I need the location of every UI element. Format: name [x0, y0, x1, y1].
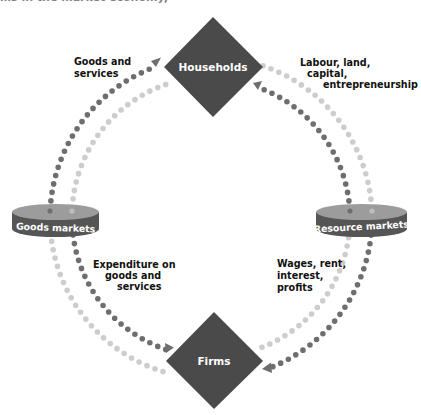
incomes-label: Wages, rent, interest, profits: [277, 258, 349, 293]
flow-incomes-to-households: [253, 81, 350, 218]
flow-dot-icon: [47, 208, 52, 213]
flow-dot-icon: [69, 208, 74, 213]
resource-markets-node: Resource markets: [313, 204, 409, 237]
expenditure-label: Expenditure on goods and services: [93, 259, 179, 292]
arrow-head-icon: [253, 81, 262, 90]
goods-markets-top: [12, 204, 99, 220]
goods-markets-node: Goods markets: [12, 204, 99, 237]
firms-node: Firms: [166, 312, 263, 409]
flow-dot-icon: [369, 208, 374, 213]
arrow-head-icon: [165, 343, 174, 353]
arrow-head-icon: [262, 363, 272, 374]
flow-households-spending-to-goods-market: [72, 85, 166, 218]
arrow-head-icon: [151, 58, 161, 68]
flow-goods-services-to-households: [50, 58, 161, 219]
resource-markets-top: [316, 204, 407, 220]
households-label: Households: [179, 61, 248, 73]
firms-label: Firms: [197, 355, 230, 367]
circular-flow-diagram: Households Firms Goods markets Resource …: [0, 0, 421, 415]
flow-goods-from-firms: [50, 218, 163, 372]
households-node: Households: [164, 17, 263, 117]
goods-services-label: Goods and services: [74, 56, 135, 79]
flow-dot-icon: [347, 208, 352, 213]
factors-of-production-label: Labour, land, capital, entrepreneurship: [300, 57, 418, 90]
flow-resources-to-firms: [262, 218, 372, 373]
